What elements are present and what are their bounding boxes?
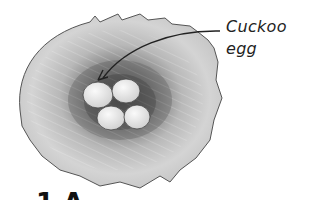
cuckoo-egg-label: Cuckoo egg [226, 16, 287, 60]
label-line-2: egg [226, 38, 287, 60]
cropped-caption: 1 A [36, 190, 83, 200]
host-egg [124, 105, 150, 129]
label-line-1: Cuckoo [226, 16, 287, 38]
host-egg [112, 79, 140, 103]
cuckoo-egg [83, 82, 113, 108]
host-egg [97, 106, 125, 130]
